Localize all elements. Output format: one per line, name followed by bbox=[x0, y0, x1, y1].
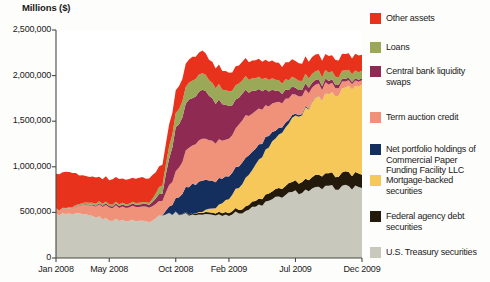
legend-item-term-auction-credit[interactable]: Term auction credit bbox=[370, 112, 458, 123]
legend-item-cpff[interactable]: Net portfolio holdings of Commercial Pap… bbox=[370, 144, 488, 176]
legend-label: Federal agency debt securities bbox=[386, 211, 488, 232]
legend-label: Net portfolio holdings of Commercial Pap… bbox=[386, 144, 488, 176]
y-tick-label-2: 1,000,000 bbox=[0, 161, 51, 171]
legend-item-mortgage-backed-securities[interactable]: Mortgage-backed securities bbox=[370, 175, 488, 196]
y-tick-label-5: 2,500,000 bbox=[0, 24, 51, 34]
legend-label: U.S. Treasury securities bbox=[386, 247, 477, 258]
y-tick-label-1: 500,000 bbox=[0, 206, 51, 216]
legend-item-central-bank-liquidity-swaps[interactable]: Central bank liquidity swaps bbox=[370, 66, 488, 87]
legend-swatch-icon bbox=[370, 175, 381, 186]
legend-item-us-treasury-securities[interactable]: U.S. Treasury securities bbox=[370, 247, 477, 258]
y-tick-label-3: 1,500,000 bbox=[0, 115, 51, 125]
x-tick-label-3: Feb 2009 bbox=[196, 264, 262, 274]
legend-item-federal-agency-debt-securities[interactable]: Federal agency debt securities bbox=[370, 211, 488, 232]
x-tick-label-1: May 2008 bbox=[76, 264, 142, 274]
legend-swatch-icon bbox=[370, 144, 381, 155]
x-tick-label-4: Jul 2009 bbox=[262, 264, 328, 274]
legend-label: Other assets bbox=[386, 13, 435, 24]
legend-swatch-icon bbox=[370, 112, 381, 123]
legend-item-loans[interactable]: Loans bbox=[370, 42, 410, 53]
legend-label: Central bank liquidity swaps bbox=[386, 66, 488, 87]
legend-label: Mortgage-backed securities bbox=[386, 175, 488, 196]
stacked-area-chart bbox=[0, 0, 490, 282]
legend-swatch-icon bbox=[370, 211, 381, 222]
legend-item-other-assets[interactable]: Other assets bbox=[370, 13, 435, 24]
legend-label: Loans bbox=[386, 42, 410, 53]
legend-label: Term auction credit bbox=[386, 112, 458, 123]
legend-swatch-icon bbox=[370, 66, 381, 77]
x-tick-label-5: Dec 2009 bbox=[329, 264, 395, 274]
y-tick-label-0: 0 bbox=[0, 252, 51, 262]
y-tick-label-4: 2,000,000 bbox=[0, 70, 51, 80]
legend-swatch-icon bbox=[370, 247, 381, 258]
chart-figure: Millions ($) 0500,0001,000,0001,500,0002… bbox=[0, 0, 490, 282]
legend-swatch-icon bbox=[370, 42, 381, 53]
legend-swatch-icon bbox=[370, 13, 381, 24]
